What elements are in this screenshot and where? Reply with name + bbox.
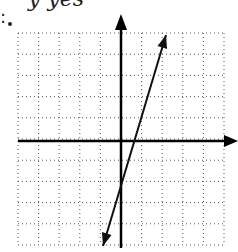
axes xyxy=(18,14,238,248)
y-axis-arrow-icon xyxy=(115,14,127,30)
coordinate-graph xyxy=(0,0,238,252)
x-axis-arrow-icon xyxy=(224,135,238,147)
line-arrow-bottom-icon xyxy=(102,232,112,246)
